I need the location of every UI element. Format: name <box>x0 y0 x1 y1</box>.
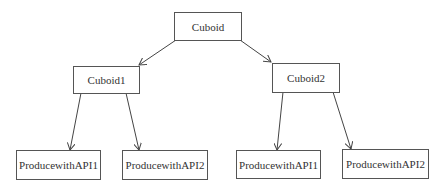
edge-c1-c1b <box>126 93 139 150</box>
tree-diagram: Cuboid Cuboid1 Cuboid2 ProducewithAPI1 P… <box>0 0 442 192</box>
node-cuboid1-producewithapi1: ProducewithAPI1 <box>16 150 101 180</box>
node-label: Cuboid <box>192 21 224 33</box>
node-label: ProducewithAPI2 <box>126 159 205 171</box>
node-label: ProducewithAPI1 <box>19 159 98 171</box>
edge-root-c2 <box>240 40 271 62</box>
node-cuboid2-producewithapi1: ProducewithAPI1 <box>236 150 321 179</box>
node-label: ProducewithAPI1 <box>239 159 318 171</box>
node-cuboid1-producewithapi2: ProducewithAPI2 <box>122 150 208 180</box>
node-label: Cuboid2 <box>287 72 325 84</box>
node-cuboid-root: Cuboid <box>174 12 242 41</box>
edge-c2-c2a <box>277 92 283 150</box>
node-cuboid1: Cuboid1 <box>73 66 140 94</box>
node-cuboid2: Cuboid2 <box>272 63 340 93</box>
node-label: Cuboid1 <box>88 74 126 86</box>
node-label: ProducewithAPI2 <box>346 158 425 170</box>
node-cuboid2-producewithapi2: ProducewithAPI2 <box>342 149 429 179</box>
edge-c1-c1a <box>70 93 81 150</box>
edge-c2-c2b <box>333 92 351 149</box>
edge-root-c1 <box>139 40 176 65</box>
